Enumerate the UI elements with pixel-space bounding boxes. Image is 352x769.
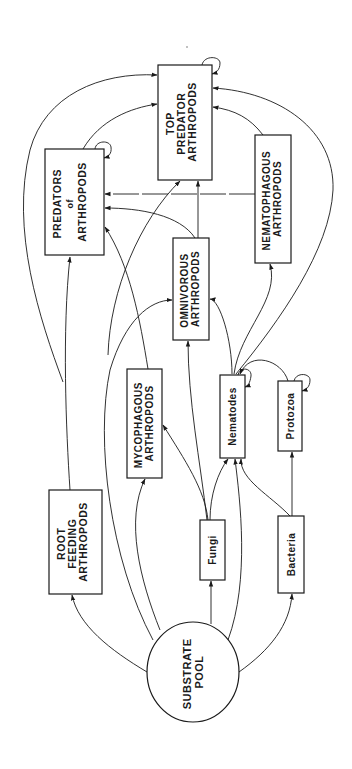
label-line: Protozoa — [285, 393, 296, 440]
edge-bacteria-to-nematodes — [241, 459, 290, 516]
svg-text:Bacteria: Bacteria — [286, 533, 297, 576]
svg-text:Nematodes: Nematodes — [227, 387, 238, 445]
label-line: PREDATORS — [51, 169, 63, 238]
edge-substrate-to-nematodes — [228, 459, 242, 640]
label-line: Nematodes — [227, 387, 238, 445]
node-bacteria: Bacteria — [278, 516, 304, 593]
edge-substrate-to-bacteria — [239, 594, 292, 672]
edge-nematodes-to-nematophagous — [234, 264, 272, 374]
label-line: Fungi — [207, 535, 218, 565]
svg-text:OMNIVOROUS ARTHROPODS: OMNIVOROUS ARTHROPODS — [179, 250, 201, 328]
svg-text:MYCOPHAGOUS ARTHROPODS: MYCOPHAGOUS ARTHROPODS — [133, 379, 155, 468]
edge-nematodes-to-omnivorous — [210, 299, 232, 374]
label-line: NEMATOPHAGOUS — [261, 151, 272, 250]
node-nematophagous-arthropods: NEMATOPHAGOUS ARTHROPODS — [255, 135, 291, 263]
label-line: POOL — [193, 655, 205, 688]
edge-substrate-to-mycophagous — [136, 479, 160, 630]
label-line: Bacteria — [286, 533, 297, 576]
label-line: ARTHROPODS — [190, 251, 201, 327]
label-line: of — [65, 198, 75, 208]
edge-predators-to-toppredator — [83, 104, 157, 149]
label-line: MYCOPHAGOUS — [133, 382, 144, 468]
label-line: ARTHROPODS — [144, 385, 155, 461]
label-line: ARTHROPODS — [186, 82, 198, 162]
node-omnivorous-arthropods: OMNIVOROUS ARTHROPODS — [173, 238, 209, 340]
edge-mycophagous-to-toppredator — [108, 181, 180, 355]
node-top-predator-arthropods: TOP PREDATOR ARTHROPODS — [158, 65, 212, 180]
edge-nematophagous-to-toppredator — [213, 107, 263, 135]
label-line: ARTHROPODS — [77, 502, 89, 582]
node-predators-of-arthropods: PREDATORS of ARTHROPODS — [45, 149, 104, 255]
node-protozoa: Protozoa — [278, 381, 302, 451]
svg-text:Fungi: Fungi — [207, 535, 218, 565]
node-fungi: Fungi — [200, 520, 225, 580]
edge-protozoa-to-nematodes — [240, 360, 288, 381]
stray-dot — [186, 46, 187, 47]
node-mycophagous-arthropods: MYCOPHAGOUS ARTHROPODS — [127, 369, 162, 478]
svg-text:NEMATOPHAGOUS ARTHROPODS: NEMATOPHAGOUS ARTHROPODS — [261, 148, 283, 251]
label-line: SUBSTRATE — [181, 638, 193, 709]
edge-fungi-to-nematodes — [210, 459, 228, 520]
edge-substrate-to-rootfeeding — [72, 595, 147, 672]
label-line: ARTHROPODS — [272, 161, 283, 237]
edge-fungi-to-mycophagous — [163, 425, 208, 520]
edge-fungi-to-omnivorous — [188, 341, 207, 520]
label-line: OMNIVOROUS — [179, 253, 190, 327]
edge-rootfeeding-to-predators — [65, 257, 70, 490]
node-nematodes: Nematodes — [220, 375, 245, 458]
node-substrate-pool: SUBSTRATE POOL — [147, 622, 239, 722]
food-web-diagram: TOP PREDATOR ARTHROPODS PREDATORS of ART… — [0, 0, 352, 769]
edge-omnivorous-to-predators — [105, 208, 195, 238]
label-line: ARTHROPODS — [76, 162, 88, 242]
edge-mycophagous-to-predators — [105, 227, 148, 369]
svg-text:Protozoa: Protozoa — [285, 393, 296, 440]
node-root-feeding-arthropods: ROOT FEEDING ARTHROPODS — [49, 490, 102, 594]
